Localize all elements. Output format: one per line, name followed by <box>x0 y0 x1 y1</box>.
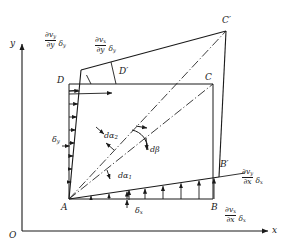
delta-y-label: δy <box>52 136 60 145</box>
fraction-tail: δx <box>237 215 246 224</box>
dalpha2-symbol: dα <box>104 131 115 140</box>
tail-subscript: x <box>260 179 263 185</box>
fraction-stack: ∂vy ∂y <box>44 31 57 49</box>
deformation-diagram: y x O A B C D B′ C′ D′ δy δx dα2 dβ dα1 … <box>0 0 289 248</box>
dalpha1-subscript: 1 <box>129 174 132 180</box>
dbeta-arrow-top <box>136 126 147 128</box>
vertex-label-B-prime: B′ <box>220 160 229 169</box>
fraction-tail: δy <box>107 45 116 54</box>
fraction-denominator: ∂y <box>95 45 105 54</box>
gradient-label-dvy-dy: ∂vy ∂y δy <box>44 31 66 49</box>
edge-Dprime-A <box>69 70 81 199</box>
dalpha1-symbol: dα <box>118 171 129 180</box>
gradient-label-dvx-dy: ∂vx ∂y δy <box>94 36 116 54</box>
vertex-label-C-prime: C′ <box>222 16 231 25</box>
vertex-label-D-prime: D′ <box>119 67 128 76</box>
numerator-text: ∂v <box>95 35 103 44</box>
vertex-label-B: B <box>211 203 218 212</box>
delta-y-subscript: y <box>57 138 60 144</box>
fraction-numerator: ∂vy <box>241 168 254 177</box>
fraction-tail: δy <box>57 40 66 49</box>
diagonal-A-Cprime <box>69 31 226 199</box>
fraction-stack: ∂vx ∂y <box>94 36 107 54</box>
gradient-label-dvx-dx: ∂vx ∂x δx <box>224 206 246 224</box>
top-row-arrow <box>69 93 112 94</box>
vertex-label-A: A <box>61 203 68 212</box>
top-face-arrow-row <box>69 93 112 94</box>
numerator-subscript: y <box>250 170 253 176</box>
numerator-text: ∂v <box>242 167 250 176</box>
dalpha2-arrow-lower <box>106 143 114 150</box>
diagonal-AC <box>69 84 213 199</box>
delta-x-label: δx <box>135 207 143 216</box>
numerator-text: ∂v <box>225 205 233 214</box>
numerator-subscript: x <box>233 208 236 214</box>
edge-Bprime-Cprime <box>219 31 226 177</box>
dbeta-label: dβ <box>150 146 160 154</box>
tail-subscript: y <box>63 42 66 48</box>
origin-label: O <box>9 231 16 240</box>
fraction-stack: ∂vy ∂x <box>241 168 254 186</box>
dalpha2-subscript: 2 <box>115 134 118 140</box>
x-axis-label: x <box>272 226 277 235</box>
numerator-subscript: y <box>53 33 56 39</box>
tail-subscript: y <box>113 47 116 53</box>
fraction-denominator: ∂x <box>242 177 252 186</box>
fraction-numerator: ∂vy <box>44 31 57 40</box>
vertex-label-C: C <box>205 73 212 82</box>
fraction-stack: ∂vx ∂x <box>224 206 237 224</box>
dalpha2-arrow-upper <box>96 127 104 134</box>
fraction-denominator: ∂y <box>45 40 55 49</box>
fraction-numerator: ∂vx <box>94 36 107 45</box>
vertex-label-D: D <box>57 76 64 85</box>
dalpha1-label: dα1 <box>118 172 132 181</box>
dalpha1-arrow <box>107 170 110 179</box>
tail-subscript: x <box>243 217 246 223</box>
y-axis-label: y <box>10 39 15 48</box>
gradient-label-dvy-dx: ∂vy ∂x δx <box>241 168 263 186</box>
top-shear-line2 <box>111 62 116 84</box>
diagonals-dashdot <box>69 31 226 199</box>
bottom-face-velocity-profile-arrows <box>91 179 214 200</box>
fraction-tail: δx <box>254 177 263 186</box>
numerator-subscript: x <box>103 38 106 44</box>
edge-A-Bprime <box>69 177 219 199</box>
fraction-numerator: ∂vx <box>224 206 237 215</box>
numerator-text: ∂v <box>45 30 53 39</box>
delta-x-subscript: x <box>140 209 143 215</box>
dalpha2-label: dα2 <box>104 132 118 141</box>
top-shear-line <box>87 75 92 84</box>
dbeta-arrow-bottom <box>146 138 147 150</box>
fraction-denominator: ∂x <box>225 215 235 224</box>
